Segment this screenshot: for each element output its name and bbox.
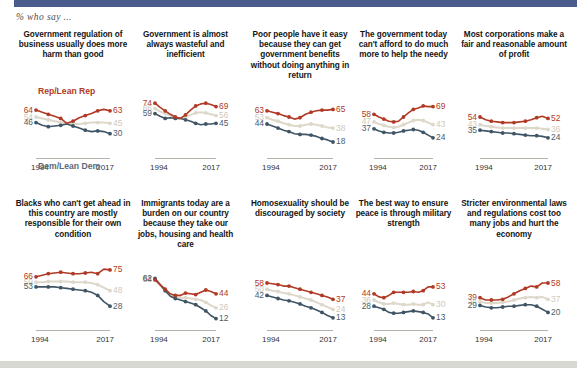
x-axis-line <box>36 330 110 331</box>
series-point <box>546 297 550 301</box>
x-axis-line <box>36 158 110 159</box>
series-point <box>320 311 324 315</box>
start-value-label: 53 <box>14 281 33 291</box>
series-point <box>382 307 386 311</box>
series-point <box>501 131 505 135</box>
series-point <box>265 109 269 113</box>
series-point <box>478 304 482 308</box>
series-point <box>372 120 376 124</box>
series-point <box>392 120 396 124</box>
series-point <box>392 301 396 305</box>
series-point <box>287 292 291 296</box>
series-point <box>153 278 157 282</box>
series-point <box>421 104 425 108</box>
series-point <box>331 126 335 130</box>
series-point <box>512 304 516 308</box>
series-point <box>382 296 386 300</box>
end-value-label: 65 <box>336 104 345 114</box>
series-point <box>431 303 435 307</box>
series-point <box>535 296 539 300</box>
series-point <box>512 292 516 296</box>
series-point <box>402 311 406 315</box>
series-point <box>34 115 38 119</box>
series-point <box>309 298 313 302</box>
panel-title: Stricter environmental laws and regulati… <box>458 199 570 240</box>
series-point <box>411 108 415 112</box>
series-point <box>512 126 516 130</box>
series-point <box>153 101 157 105</box>
series-point <box>382 302 386 306</box>
series-point <box>276 126 280 130</box>
series-point <box>214 292 218 296</box>
series-point <box>194 297 198 301</box>
end-value-label: 24 <box>551 132 560 142</box>
end-value-label: 69 <box>436 101 445 111</box>
series-point <box>501 126 505 130</box>
end-value-label: 38 <box>336 123 345 133</box>
series-point <box>402 290 406 294</box>
series-point <box>402 129 406 133</box>
end-value-label: 12 <box>219 313 228 323</box>
series-point <box>46 285 50 289</box>
series-point <box>501 297 505 301</box>
series-point <box>331 316 335 320</box>
start-value-label: 62 <box>133 273 152 283</box>
series-point <box>309 110 313 114</box>
series-point <box>535 134 539 138</box>
series-point <box>382 130 386 134</box>
series-point <box>523 126 527 130</box>
end-value-label: 20 <box>551 307 560 317</box>
series-point <box>194 104 198 108</box>
end-value-label: 24 <box>436 132 445 142</box>
series-point <box>34 275 38 279</box>
series-point <box>546 311 550 315</box>
series-point <box>411 309 415 313</box>
series-point <box>59 280 63 284</box>
start-value-label: 59 <box>133 108 152 118</box>
series-point <box>96 294 100 298</box>
series-point <box>287 299 291 303</box>
end-value-label: 26 <box>219 302 228 312</box>
series-point <box>489 298 493 302</box>
series-point <box>421 303 425 307</box>
x-axis-line <box>267 330 333 331</box>
end-value-label: 43 <box>436 119 445 129</box>
axis-year-end: 2017 <box>480 163 552 172</box>
series-point <box>59 117 63 121</box>
series-point <box>298 116 302 120</box>
series-point <box>204 309 208 313</box>
series-point <box>489 130 493 134</box>
end-value-label: 18 <box>336 136 345 146</box>
series-point <box>372 304 376 308</box>
series-point <box>501 121 505 125</box>
end-value-label: 45 <box>113 118 122 128</box>
series-point <box>59 286 63 290</box>
end-value-label: 48 <box>113 285 122 295</box>
axis-year-end: 2017 <box>155 335 220 344</box>
series-point <box>108 289 112 293</box>
series-point <box>83 121 87 125</box>
end-value-label: 75 <box>113 264 122 274</box>
series-point <box>83 114 87 118</box>
x-axis-line <box>155 330 216 331</box>
series-point <box>34 121 38 125</box>
series-point <box>287 123 291 127</box>
series-point <box>83 128 87 132</box>
axis-year-end: 2017 <box>267 335 337 344</box>
end-value-label: 53 <box>436 281 445 291</box>
series-point <box>382 117 386 121</box>
series-point <box>535 304 539 308</box>
series-point <box>204 122 208 126</box>
series-point <box>46 280 50 284</box>
series-point <box>392 311 396 315</box>
series-point <box>320 294 324 298</box>
series-point <box>298 124 302 128</box>
axis-year-end: 2017 <box>36 335 114 344</box>
series-point <box>163 287 167 291</box>
series-point <box>204 111 208 115</box>
series-point <box>46 125 50 129</box>
series-point <box>372 292 376 296</box>
series-point <box>96 121 100 125</box>
series-point <box>523 119 527 123</box>
series-point <box>523 303 527 307</box>
